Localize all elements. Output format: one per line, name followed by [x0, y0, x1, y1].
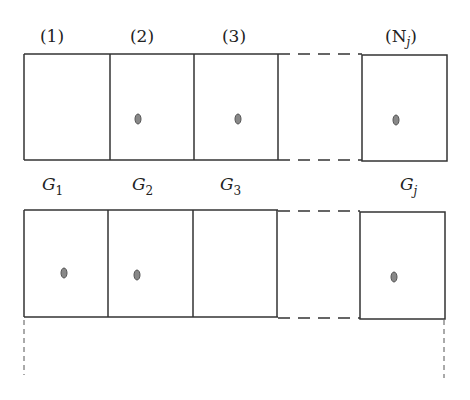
particle-icon	[134, 270, 140, 280]
label-g1: G1	[42, 174, 63, 198]
cell-diagram: (1) (2) (3) (Nj) G1 G2 G3 Gj	[0, 0, 470, 400]
particle-icon	[391, 272, 397, 282]
row-1-particles	[135, 114, 399, 125]
label-cell-nj: (Nj)	[385, 26, 417, 49]
row-2	[24, 210, 445, 319]
row-1	[24, 54, 447, 161]
label-g2: G2	[132, 174, 153, 198]
label-cell-3: (3)	[222, 26, 246, 46]
continuation-lines	[24, 320, 444, 378]
particle-icon	[235, 114, 241, 124]
label-cell-1: (1)	[40, 26, 64, 46]
row-2-particles	[61, 268, 397, 282]
label-g3: G3	[220, 174, 241, 198]
label-gj: Gj	[400, 174, 418, 198]
particle-icon	[393, 115, 399, 125]
particle-icon	[61, 268, 67, 278]
particle-icon	[135, 114, 141, 124]
label-cell-2: (2)	[130, 26, 154, 46]
